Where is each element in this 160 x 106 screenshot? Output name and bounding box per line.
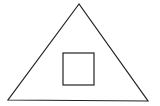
- inner-square: [63, 53, 94, 85]
- diagram-canvas: [0, 0, 160, 106]
